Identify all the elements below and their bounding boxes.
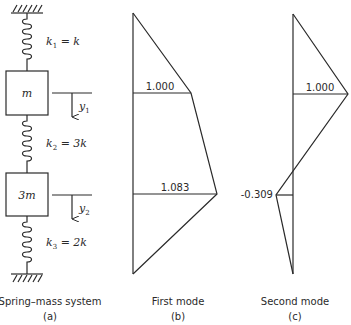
spring-k1-icon bbox=[23, 13, 32, 71]
second-mode-value-1: 1.000 bbox=[306, 82, 335, 93]
spring-k2-label: k2 = 3k bbox=[46, 137, 87, 152]
top-support-icon bbox=[11, 5, 43, 13]
sublabel-c: (c) bbox=[288, 311, 301, 322]
sublabel-b: (b) bbox=[171, 311, 185, 322]
displacement-y1-label: y1 bbox=[78, 100, 90, 115]
caption-c: Second mode bbox=[261, 296, 329, 307]
caption-b: First mode bbox=[152, 296, 205, 307]
second-mode-shape: 1.000 -0.309 Second mode (c) bbox=[241, 14, 348, 322]
spring-k2-icon bbox=[23, 115, 32, 173]
caption-a: Spring–mass system bbox=[0, 296, 101, 307]
mass-m-label: m bbox=[22, 87, 32, 100]
spring-mass-system: k1 = k m y1 k2 = 3k 3m y2 k3 = 2k bbox=[0, 5, 101, 322]
first-mode-shape: 1.000 1.083 First mode (b) bbox=[133, 13, 217, 322]
mode-shape-line bbox=[276, 14, 348, 274]
mass-3m-label: 3m bbox=[18, 189, 35, 202]
mode-shape-line bbox=[133, 13, 217, 274]
ground-support-icon bbox=[11, 274, 43, 282]
spring-k3-label: k3 = 2k bbox=[46, 236, 87, 251]
spring-mass-diagram: k1 = k m y1 k2 = 3k 3m y2 k3 = 2k bbox=[0, 0, 351, 325]
second-mode-value-2: -0.309 bbox=[241, 189, 273, 200]
first-mode-value-1: 1.000 bbox=[146, 81, 175, 92]
displacement-y2-label: y2 bbox=[78, 202, 90, 217]
sublabel-a: (a) bbox=[43, 311, 57, 322]
spring-k3-icon bbox=[23, 216, 32, 274]
first-mode-value-2: 1.083 bbox=[161, 182, 190, 193]
spring-k1-label: k1 = k bbox=[46, 35, 80, 50]
